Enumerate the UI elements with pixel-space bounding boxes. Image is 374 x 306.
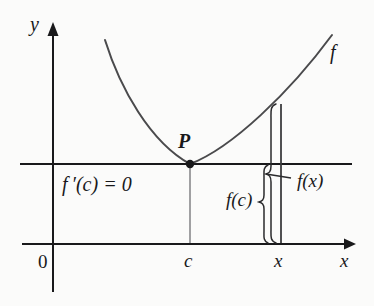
y-axis-arrow-icon	[48, 22, 59, 36]
x-tick-label: x	[274, 251, 282, 270]
fc-label: f(c)	[226, 190, 252, 209]
curve-label: f	[330, 42, 336, 62]
brace-fx	[266, 104, 276, 243]
point-label-P: P	[178, 131, 190, 151]
calculus-figure: y f P f ′(c) = 0 f(c) f(x) 0 c x x	[0, 0, 374, 306]
y-axis-label: y	[30, 14, 39, 34]
fx-label: f(x)	[297, 171, 323, 190]
x-axis-label: x	[340, 251, 348, 270]
x-axis	[22, 239, 356, 250]
function-curve	[105, 35, 332, 164]
y-axis	[48, 22, 59, 292]
x-axis-arrow-icon	[344, 239, 356, 250]
derivative-equation-label: f ′(c) = 0	[62, 174, 132, 194]
c-tick-label: c	[184, 251, 192, 270]
brace-fc	[259, 165, 268, 243]
point-P-marker	[186, 160, 194, 168]
origin-label: 0	[38, 252, 48, 271]
